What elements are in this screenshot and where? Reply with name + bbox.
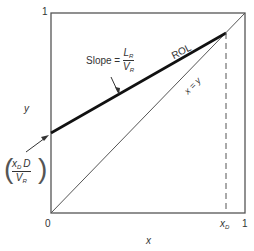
y-axis-label: y bbox=[24, 104, 29, 114]
diagram-canvas bbox=[0, 0, 254, 251]
intercept-fraction: xD D VR bbox=[12, 159, 31, 184]
diagonal-line bbox=[51, 13, 245, 213]
intercept-numerator: xD D bbox=[12, 159, 31, 170]
x-max-label: 1 bbox=[242, 219, 248, 229]
right-paren: ) bbox=[38, 155, 47, 183]
intercept-arrow-line bbox=[26, 138, 45, 152]
slope-denominator: VR bbox=[123, 62, 134, 73]
intercept-denominator: VR bbox=[16, 173, 27, 184]
x-axis-label: x bbox=[146, 236, 151, 246]
y-max-label: 1 bbox=[42, 7, 48, 17]
slope-fraction: LR VR bbox=[123, 48, 134, 73]
origin-label: 0 bbox=[45, 219, 51, 229]
xd-label: xD bbox=[220, 219, 229, 230]
slope-numerator: LR bbox=[124, 48, 134, 59]
slope-prefix: Slope = bbox=[86, 56, 120, 66]
